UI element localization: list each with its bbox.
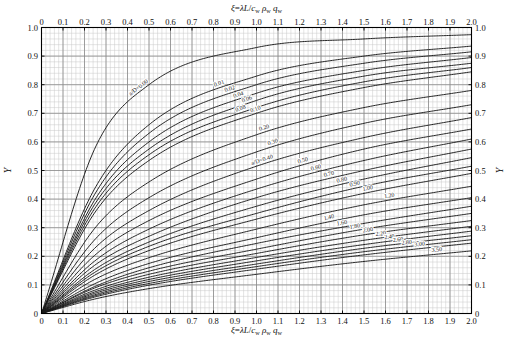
x-tick-label-bottom: 1.3 — [316, 316, 327, 326]
x-tick-label-bottom: 0.4 — [122, 316, 133, 326]
y-tick-label-left: 0.3 — [27, 223, 38, 233]
x-tick-label-top: 0.7 — [187, 17, 198, 27]
x-tick-label-top: 0.6 — [165, 17, 176, 27]
y-tick-label-left: 1.0 — [27, 23, 38, 33]
x-tick-label-top: 1.8 — [423, 17, 434, 27]
curve-label-text: 3.50 — [431, 246, 442, 253]
y-tick-label-left: 0.4 — [27, 194, 38, 204]
curve-label: 3.503.50 — [431, 246, 442, 253]
y-tick-label-left: 0.2 — [27, 251, 38, 261]
curve-label: 2.802.80 — [401, 239, 412, 246]
curve-label: 3.003.00 — [414, 241, 425, 248]
y-axis-title-left: Y — [2, 166, 13, 173]
x-tick-label-top: 1.5 — [359, 17, 370, 27]
y-tick-label-right: 0.8 — [475, 80, 486, 90]
x-tick-label-bottom: 1.7 — [402, 316, 413, 326]
y-tick-label-right: 0 — [475, 309, 479, 319]
y-tick-label-right: 0.9 — [475, 51, 486, 61]
x-axis-title-bottom: ξ=λL/cw ρw qw — [231, 325, 283, 336]
curve-label-text: 2.80 — [401, 239, 412, 246]
x-tick-label-top: 1.2 — [294, 17, 305, 27]
x-axis-title-top: ξ=λL/cw ρw qw — [231, 3, 283, 14]
x-tick-label-top: 1.0 — [251, 17, 262, 27]
x-tick-label-bottom: 0.5 — [144, 316, 155, 326]
curve-label-text: 3.00 — [414, 241, 425, 248]
y-tick-label-right: 0.4 — [475, 194, 486, 204]
x-tick-label-bottom: 0.2 — [79, 316, 90, 326]
y-tick-label-right: 0.5 — [475, 166, 486, 176]
y-tick-label-left: 0.7 — [27, 108, 38, 118]
y-tick-label-right: 1.0 — [475, 23, 486, 33]
x-tick-label-top: 1.1 — [273, 17, 284, 27]
y-tick-label-right: 0.6 — [475, 137, 486, 147]
y-tick-label-left: 0.1 — [27, 280, 38, 290]
y-tick-label-right: 0.7 — [475, 108, 486, 118]
x-tick-label-bottom: 1.6 — [380, 316, 391, 326]
x-tick-label-top: 0.1 — [58, 17, 69, 27]
x-tick-label-top: 1.4 — [337, 17, 348, 27]
y-tick-label-right: 0.1 — [475, 280, 486, 290]
chart-canvas: a/D=0.00a/D=0.000.010.010.020.020.040.04… — [0, 0, 514, 354]
x-tick-label-top: 0.8 — [208, 17, 219, 27]
y-tick-label-left: 0.6 — [27, 137, 38, 147]
x-tick-label-top: 0.2 — [79, 17, 90, 27]
x-tick-label-bottom: 1.2 — [294, 316, 305, 326]
x-tick-label-bottom: 0.6 — [165, 316, 176, 326]
x-tick-label-top: 1.3 — [316, 17, 327, 27]
x-tick-label-top: 0.4 — [122, 17, 133, 27]
x-tick-label-top: 0 — [39, 17, 43, 27]
x-tick-label-bottom: 0.3 — [101, 316, 112, 326]
x-tick-label-bottom: 0.7 — [187, 316, 198, 326]
y-axis-title-right: Y — [494, 166, 505, 173]
x-tick-label-bottom: 1.5 — [359, 316, 370, 326]
chart-figure: a/D=0.00a/D=0.000.010.010.020.020.040.04… — [0, 0, 514, 354]
y-tick-label-right: 0.3 — [475, 223, 486, 233]
x-tick-label-bottom: 1.8 — [423, 316, 434, 326]
x-tick-label-bottom: 0.1 — [58, 316, 69, 326]
x-tick-label-top: 0.9 — [230, 17, 241, 27]
x-tick-label-bottom: 0 — [39, 316, 43, 326]
x-tick-label-bottom: 1.9 — [445, 316, 456, 326]
x-tick-label-top: 1.9 — [445, 17, 456, 27]
x-tick-label-top: 1.6 — [380, 17, 391, 27]
x-tick-label-bottom: 0.8 — [208, 316, 219, 326]
y-tick-label-left: 0.8 — [27, 80, 38, 90]
x-tick-label-top: 0.5 — [144, 17, 155, 27]
x-tick-label-top: 0.3 — [101, 17, 112, 27]
y-tick-label-left: 0.5 — [27, 166, 38, 176]
y-tick-label-right: 0.2 — [475, 251, 486, 261]
x-tick-label-top: 1.7 — [402, 17, 413, 27]
y-tick-label-left: 0.9 — [27, 51, 38, 61]
x-tick-label-bottom: 1.4 — [337, 316, 348, 326]
y-tick-label-left: 0 — [34, 309, 38, 319]
